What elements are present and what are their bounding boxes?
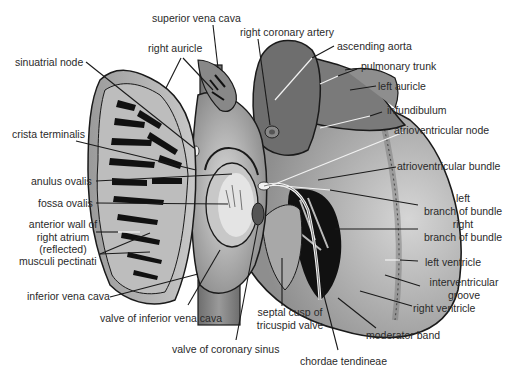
label-musculi-pectinati: musculi pectinati <box>19 255 97 268</box>
label-pulmonary-trunk: pulmonary trunk <box>361 60 436 73</box>
label-atrioventricular-bundle: atrioventricular bundle <box>397 160 500 173</box>
label-left-auricle: left auricle <box>378 80 426 93</box>
label-chordae-tendineae: chordae tendineae <box>300 355 387 368</box>
label-valve-coronary-sinus: valve of coronary sinus <box>172 343 279 356</box>
label-interventricular-groove: interventricular groove <box>420 276 508 301</box>
label-anterior-wall-right-atrium: anterior wall of right atrium (reflected… <box>28 218 98 256</box>
label-right-branch-of-bundle: right branch of bundle <box>418 218 508 243</box>
label-anulus-ovalis: anulus ovalis <box>31 175 92 188</box>
heart-anatomy-diagram: superior vena cava right auricle sinuatr… <box>0 0 510 377</box>
label-left-branch-of-bundle: left branch of bundle <box>418 192 508 217</box>
reflected-anterior-wall <box>88 70 196 304</box>
label-fossa-ovalis: fossa ovalis <box>38 197 93 210</box>
label-superior-vena-cava: superior vena cava <box>152 12 241 25</box>
label-ascending-aorta: ascending aorta <box>337 40 412 53</box>
label-left-ventricle: left ventricle <box>425 256 481 269</box>
label-right-coronary-artery: right coronary artery <box>240 26 334 39</box>
label-infundibulum: infundibulum <box>387 104 447 117</box>
label-crista-terminalis: crista terminalis <box>12 128 85 141</box>
label-moderator-band: moderator band <box>366 329 440 342</box>
label-inferior-vena-cava: inferior vena cava <box>27 290 110 303</box>
label-right-ventricle: right ventricle <box>413 302 475 315</box>
ascending-aorta <box>253 40 320 155</box>
label-sinuatrial-node: sinuatrial node <box>15 56 83 69</box>
label-valve-inferior-vena-cava: valve of inferior vena cava <box>100 312 222 325</box>
label-right-auricle: right auricle <box>148 42 202 55</box>
label-atrioventricular-node: atrioventricular node <box>394 124 489 137</box>
label-septal-cusp-tricuspid-valve: septal cusp of tricuspid valve <box>250 306 330 331</box>
